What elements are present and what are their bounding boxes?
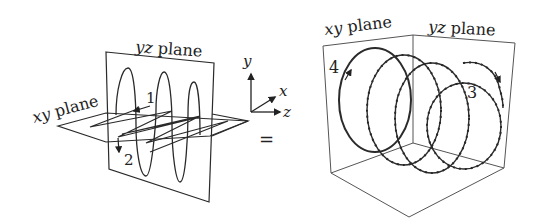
equals-sign: = xyxy=(259,129,274,150)
helix-loop-1 xyxy=(339,48,411,152)
yz-plane-label-right: yz plane xyxy=(427,17,496,40)
xy-plane-label-left: xy plane xyxy=(30,91,100,127)
helix-loop-4 xyxy=(427,83,501,169)
marker-4: 4 xyxy=(329,58,339,77)
x-axis-label: x xyxy=(279,82,288,100)
xy-plane-label-right: xy plane xyxy=(323,12,393,39)
polarization-diagram: 1 2 yz plane xy plane y x z = xyxy=(0,0,538,223)
helix xyxy=(339,48,503,173)
y-axis-label: y xyxy=(242,52,252,70)
left-figure: 1 2 yz plane xy plane xyxy=(30,37,248,202)
marker-3: 3 xyxy=(467,83,477,102)
right-figure: 3 4 xy plane yz plane xyxy=(323,12,515,217)
x-axis xyxy=(251,97,275,112)
marker-2: 2 xyxy=(124,151,134,169)
marker-1: 1 xyxy=(146,89,156,107)
bounding-box xyxy=(323,35,515,217)
z-axis-label: z xyxy=(282,103,291,121)
coordinate-axes: y x z = xyxy=(242,52,291,150)
